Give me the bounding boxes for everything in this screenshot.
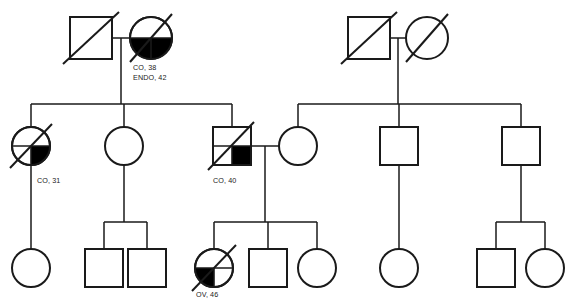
label-gen1-mother-line1: CO, 38 xyxy=(133,63,156,72)
union-gen2-middle-daughter-lines xyxy=(104,165,147,249)
individual-gen2-daughter-middle[interactable] xyxy=(105,127,143,165)
individual-gen2-daughter-affected-left[interactable] xyxy=(10,124,52,168)
individual-gen3-daughter-affected[interactable] xyxy=(192,245,236,291)
individual-gen2-son-affected[interactable] xyxy=(208,122,254,170)
label-gen1-mother-line2: ENDO, 42 xyxy=(133,73,167,82)
label-gen2-son-right: CO, 40 xyxy=(213,176,236,185)
individual-gen3-daughter-right[interactable] xyxy=(380,249,418,287)
individual-gen3-son-left-2[interactable] xyxy=(128,249,166,287)
individual-gen3-son-left[interactable] xyxy=(85,249,123,287)
individual-gen3-son-far-right[interactable] xyxy=(477,249,515,287)
individual-gen3-daughter-middle[interactable] xyxy=(298,249,336,287)
label-gen2-daughter-left: CO, 31 xyxy=(37,176,60,185)
individual-gen2-daughter-right-spouse[interactable] xyxy=(279,127,317,165)
individual-gen3-daughter-far-right[interactable] xyxy=(526,249,564,287)
pedigree-diagram: CO, 38 ENDO, 42 xyxy=(0,0,574,299)
individual-gen1-father-left[interactable] xyxy=(63,12,119,64)
individual-gen1-father-right[interactable] xyxy=(341,12,397,64)
individual-gen2-son-far-right[interactable] xyxy=(502,127,540,165)
union-gen2-far-right-son-lines xyxy=(496,165,545,249)
union-gen1-left-lines xyxy=(31,38,232,126)
individual-gen3-son-middle[interactable] xyxy=(249,249,287,287)
individual-gen1-mother-right[interactable] xyxy=(406,14,448,62)
label-gen3-daughter-affected: OV, 46 xyxy=(196,290,218,299)
individual-gen1-mother-left[interactable] xyxy=(130,14,172,62)
individual-gen2-son-middle-right[interactable] xyxy=(380,127,418,165)
individual-gen3-daughter-far-left[interactable] xyxy=(12,249,50,287)
pedigree-chart: CO, 38 ENDO, 42 xyxy=(0,0,574,299)
